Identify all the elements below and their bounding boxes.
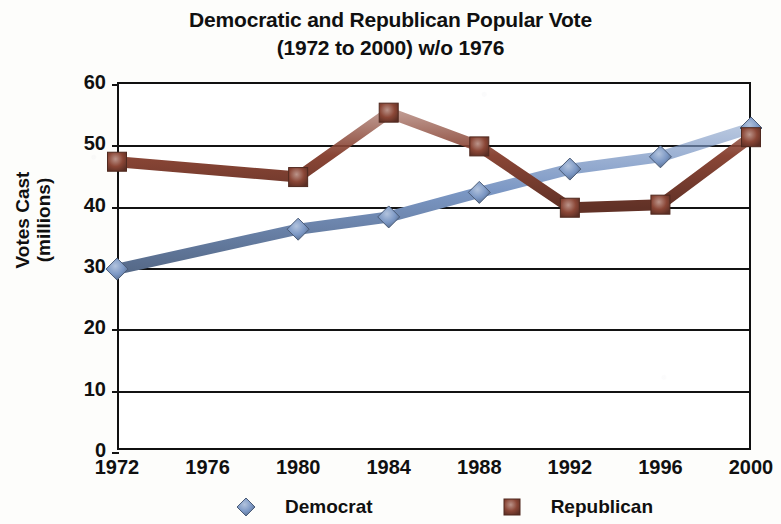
data-point-marker — [106, 258, 128, 280]
x-axis-tick-label: 1980 — [276, 456, 321, 479]
y-axis-tick-label: 50 — [42, 132, 106, 155]
x-axis-tick-label: 1988 — [457, 456, 502, 479]
chart-title-line-2: (1972 to 2000) w/o 1976 — [0, 34, 781, 62]
data-point-marker — [742, 128, 761, 147]
x-axis-tick-label: 1992 — [548, 456, 593, 479]
legend-label: Republican — [551, 496, 653, 518]
x-axis-tick-labels: 19721976198019841988199219962000 — [117, 456, 751, 486]
brown-square-marker — [481, 497, 543, 517]
legend-item-democrat[interactable]: Democrat — [215, 496, 373, 518]
data-point-marker — [651, 195, 670, 214]
chart-title-line-1: Democratic and Republican Popular Vote — [0, 6, 781, 34]
data-point-marker — [379, 103, 398, 122]
legend-item-republican[interactable]: Republican — [481, 496, 653, 518]
data-point-marker — [470, 137, 489, 156]
legend-label: Democrat — [285, 496, 373, 518]
y-axis-tick-label: 10 — [42, 377, 106, 400]
y-axis-title-line-1: Votes Cast — [13, 172, 34, 269]
x-axis-tick-label: 2000 — [729, 456, 774, 479]
chart-container: Democratic and Republican Popular Vote (… — [0, 0, 781, 524]
data-point-marker — [287, 218, 309, 240]
x-axis-tick-label: 1984 — [366, 456, 411, 479]
x-axis-tick-label: 1972 — [95, 456, 140, 479]
data-point-marker — [560, 198, 579, 217]
data-point-marker — [289, 168, 308, 187]
y-axis-tick-label: 20 — [42, 316, 106, 339]
y-axis-tick-labels: 0102030405060 — [34, 0, 106, 524]
y-axis-tick-label: 40 — [42, 193, 106, 216]
blue-diamond-marker — [215, 497, 277, 517]
y-axis-tick-label: 30 — [42, 255, 106, 278]
chart-title: Democratic and Republican Popular Vote (… — [0, 6, 781, 61]
x-axis-tick-label: 1996 — [638, 456, 683, 479]
chart-legend: DemocratRepublican — [117, 493, 751, 521]
x-axis-tick-label: 1976 — [185, 456, 230, 479]
y-axis-tick-label: 60 — [42, 71, 106, 94]
data-point-marker — [108, 152, 127, 171]
y-axis-tick-mark — [112, 452, 119, 454]
data-series-layer — [117, 82, 751, 450]
data-point-marker — [559, 158, 581, 180]
